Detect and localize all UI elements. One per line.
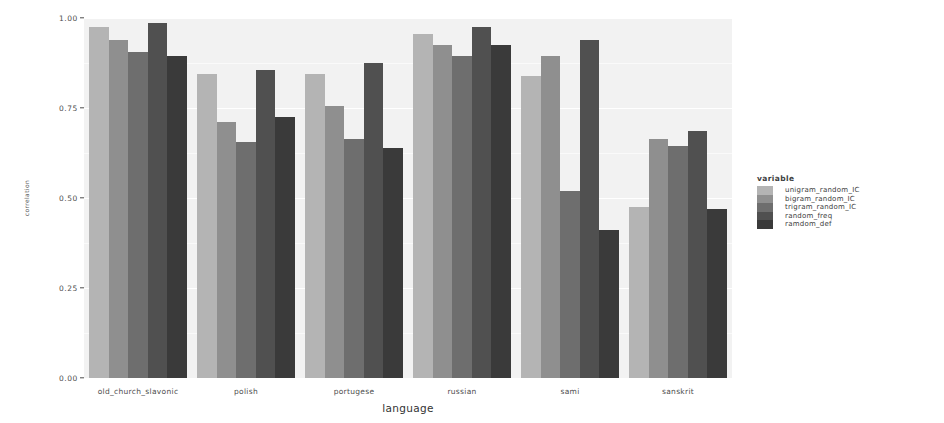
x-axis-label: language [382,402,433,414]
bar [275,117,295,378]
bar [629,207,649,378]
bars-layer [84,18,732,378]
y-tick-mark [80,197,84,198]
bar [541,56,561,378]
bar-group [305,18,403,378]
bar [325,106,345,378]
legend-label: ramdom_def [785,220,860,229]
y-tick-label: 0.00 [59,374,78,383]
bar [167,56,187,378]
x-tick-label: polish [234,387,258,396]
bar [521,76,541,378]
y-axis: correlation 0.000.250.500.751.00 [0,18,84,378]
bar [89,27,109,378]
bar-group [629,18,727,378]
bar [256,70,276,378]
bar-group [521,18,619,378]
y-tick-label: 0.50 [59,194,78,203]
bar-group [413,18,511,378]
bar [560,191,580,378]
bar [707,209,727,378]
bar [383,148,403,378]
y-axis-label: correlation [23,180,30,217]
bar [148,23,168,378]
bar [599,230,619,378]
bar [236,142,256,378]
y-tick-mark [80,287,84,288]
legend-swatch[interactable] [757,212,773,221]
y-tick-mark [80,107,84,108]
bar [649,139,669,378]
bar [688,131,708,378]
bar [128,52,148,378]
bar [433,45,453,378]
x-tick-label: old_church_slavonic [98,387,179,396]
bar [472,27,492,378]
y-tick-label: 0.75 [59,104,78,113]
y-tick-mark [80,17,84,18]
x-tick-label: russian [447,387,476,396]
bar-group [197,18,295,378]
legend-swatch[interactable] [757,186,773,195]
bar [580,40,600,378]
plot-panel [84,18,732,378]
bar [344,139,364,378]
legend-label: bigram_random_IC [785,195,860,204]
legend-label: unigram_random_IC [785,186,860,195]
bar [413,34,433,378]
legend-label: random_freq [785,212,860,221]
legend-swatch[interactable] [757,220,773,229]
bar [452,56,472,378]
legend-swatch[interactable] [757,203,773,212]
bar [668,146,688,378]
y-tick-label: 0.25 [59,284,78,293]
x-tick-label: portugese [334,387,375,396]
bar [109,40,129,378]
bar [305,74,325,378]
bar [364,63,384,378]
y-tick-label: 1.00 [59,14,78,23]
legend-labels: unigram_random_ICbigram_random_ICtrigram… [785,186,860,229]
legend-title: variable [757,174,937,183]
x-tick-label: sami [560,387,579,396]
x-axis: language old_church_slavonicpolishportug… [84,378,732,423]
x-tick-label: sanskrit [662,387,694,396]
legend-swatch[interactable] [757,195,773,204]
bar [217,122,237,378]
bar [197,74,217,378]
legend-body: unigram_random_ICbigram_random_ICtrigram… [757,186,937,229]
legend-label: trigram_random_IC [785,203,860,212]
chart-root: correlation 0.000.250.500.751.00 languag… [0,0,944,423]
legend-swatches [757,186,773,229]
bar-group [89,18,187,378]
bar [491,45,511,378]
legend: variable unigram_random_ICbigram_random_… [757,174,937,229]
